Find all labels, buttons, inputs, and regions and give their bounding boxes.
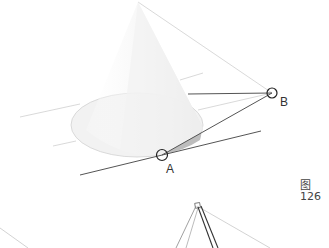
- figure-caption: 图126: [300, 180, 329, 202]
- point-b-label: B: [280, 96, 288, 108]
- point-a-label: A: [166, 163, 174, 175]
- geometry-figure: [0, 0, 329, 248]
- second-figure-partial: [0, 203, 270, 248]
